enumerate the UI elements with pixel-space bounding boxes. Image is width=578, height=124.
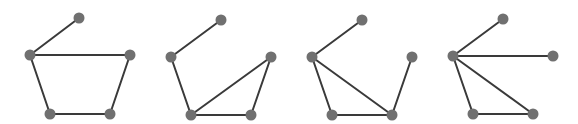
node-bottom-right	[528, 109, 539, 120]
edge-top-left	[312, 20, 362, 57]
graph-diagram-canvas	[0, 0, 578, 124]
edge-left-bottom-left	[30, 55, 50, 114]
edge-left-bottom-left	[453, 56, 473, 114]
node-left	[448, 51, 459, 62]
node-top	[216, 15, 227, 26]
edge-bottom-left-right	[191, 57, 271, 115]
node-bottom-left	[45, 109, 56, 120]
node-top	[498, 14, 509, 25]
node-right	[125, 50, 136, 61]
node-right	[407, 52, 418, 63]
node-bottom-right	[105, 109, 116, 120]
graph-2	[166, 15, 277, 121]
edge-left-bottom-left	[171, 57, 191, 115]
graphs-layer	[25, 13, 559, 121]
edge-top-left	[171, 20, 221, 57]
node-right	[548, 51, 559, 62]
node-bottom-left	[327, 110, 338, 121]
edge-bottom-right-right	[251, 57, 271, 115]
node-left	[307, 52, 318, 63]
graph-3	[307, 15, 418, 121]
node-right	[266, 52, 277, 63]
edge-top-left	[30, 18, 79, 55]
node-top	[357, 15, 368, 26]
edge-bottom-right-right	[392, 57, 412, 115]
node-bottom-right	[246, 110, 257, 121]
node-bottom-left	[468, 109, 479, 120]
edge-left-bottom-left	[312, 57, 332, 115]
graph-1	[25, 13, 136, 120]
edge-top-left	[453, 19, 503, 56]
node-left	[25, 50, 36, 61]
edge-left-bottom-right	[453, 56, 533, 114]
node-top	[74, 13, 85, 24]
graph-4	[448, 14, 559, 120]
edge-left-bottom-right	[312, 57, 392, 115]
node-bottom-left	[186, 110, 197, 121]
edge-bottom-right-right	[110, 55, 130, 114]
node-bottom-right	[387, 110, 398, 121]
node-left	[166, 52, 177, 63]
